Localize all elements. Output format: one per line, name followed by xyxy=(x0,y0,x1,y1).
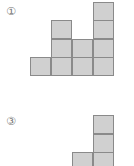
block-cell xyxy=(72,57,93,76)
block-cell xyxy=(72,152,93,166)
figure-label: ① xyxy=(6,6,16,17)
block-cell xyxy=(72,39,93,58)
block-cell xyxy=(93,39,114,58)
block-cell xyxy=(51,20,72,39)
block-cell xyxy=(93,115,114,134)
figure-label: ③ xyxy=(6,116,16,127)
block-cell xyxy=(93,57,114,76)
block-cell xyxy=(93,152,114,166)
block-cell xyxy=(93,134,114,153)
block-cell xyxy=(93,2,114,21)
block-cell xyxy=(51,39,72,58)
block-cell xyxy=(30,57,51,76)
block-cell xyxy=(51,57,72,76)
block-cell xyxy=(93,20,114,39)
